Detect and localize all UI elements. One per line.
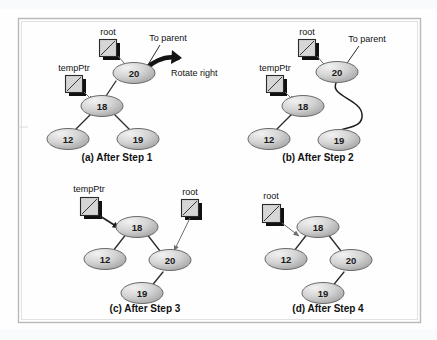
node-18: 18 [116,217,158,238]
node-20: 20 [113,63,155,84]
pointer-tempptr: tempPtr [58,63,93,101]
panel-caption: (d) After Step 4 [292,303,364,314]
edge-20-19-curve [335,83,362,131]
node-18: 18 [81,96,123,117]
node-value: 19 [137,288,148,299]
tree-rotation-figure: root tempPtr To parent Rotate right [0,0,437,340]
panel-c: tempPtr root 18 12 20 [73,184,202,314]
node-value: 12 [100,254,111,265]
node-value: 18 [97,101,108,112]
pointer-root: root [174,187,202,251]
annotation-to-parent: To parent [345,34,386,66]
node-19: 19 [117,129,159,150]
rotate-right-arrow-head-icon [171,50,182,64]
node-12: 12 [248,129,290,150]
pointer-label-root: root [263,191,279,201]
node-12: 12 [84,249,126,270]
node-20: 20 [149,250,191,271]
node-value: 20 [332,67,343,78]
pointer-label-root: root [299,27,315,37]
panel-caption: (a) After Step 1 [82,152,153,163]
annotation-label-to-parent: To parent [149,33,187,43]
pointer-tempptr: tempPtr [73,184,119,228]
node-value: 12 [264,134,275,145]
panel-a: root tempPtr To parent Rotate right [47,27,218,163]
node-19: 19 [121,283,163,304]
pointer-label-tempptr: tempPtr [58,63,90,73]
node-20: 20 [330,250,372,271]
node-value: 20 [165,255,176,266]
pointer-label-tempptr: tempPtr [259,63,291,73]
page-tint-bottom [0,329,437,340]
pointer-arrow-root [174,218,190,251]
annotation-label-to-parent: To parent [348,34,386,44]
panel-b: root tempPtr To parent 20 [248,27,386,163]
page-tint-top [0,0,437,9]
pointer-arrow-root [282,223,299,236]
pointer-tempptr: tempPtr [259,63,294,101]
node-value: 20 [346,255,357,266]
node-value: 20 [129,68,140,79]
node-value: 19 [334,135,345,146]
pointer-label-root: root [182,187,198,197]
node-19: 19 [318,130,360,151]
node-12: 12 [47,129,89,150]
node-value: 18 [132,222,143,233]
figure-container: root tempPtr To parent Rotate right [0,0,437,340]
node-value: 18 [313,222,324,233]
node-value: 18 [298,101,309,112]
node-value: 19 [133,134,144,145]
node-value: 12 [281,254,292,265]
node-19: 19 [302,283,344,304]
node-18: 18 [282,96,324,117]
node-12: 12 [265,249,307,270]
pointer-root: root [299,27,329,69]
annotation-label-rotate-right: Rotate right [171,68,218,78]
pointer-root: root [263,191,300,236]
panel-caption: (c) After Step 3 [110,303,181,314]
node-value: 19 [318,288,329,299]
node-20: 20 [316,62,358,83]
pointer-label-tempptr: tempPtr [73,184,105,194]
panel-d: root 18 12 20 19 (d) After Step 4 [263,191,373,314]
node-18: 18 [297,217,339,238]
panel-caption: (b) After Step 2 [282,152,354,163]
node-value: 12 [63,134,74,145]
pointer-label-root: root [100,27,116,37]
